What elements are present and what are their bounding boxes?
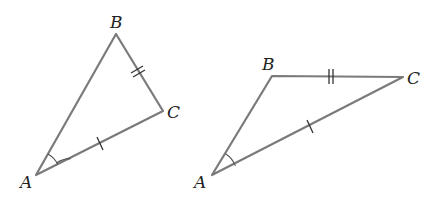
vertex-label-a: A	[18, 172, 32, 192]
vertex-label-c: C	[407, 68, 420, 88]
triangle-left: B C A	[18, 12, 180, 192]
vertex-label-a: A	[192, 172, 206, 192]
vertex-label-b: B	[109, 12, 123, 32]
vertex-label-c: C	[167, 102, 180, 122]
triangle-right: B C A	[192, 54, 420, 192]
angle-arc-a-outer	[48, 154, 58, 165]
congruence-diagram: B C A B C A	[0, 0, 432, 203]
triangle-right-outline	[212, 76, 403, 175]
triangle-left-outline	[36, 34, 163, 175]
vertex-label-b: B	[261, 54, 275, 74]
